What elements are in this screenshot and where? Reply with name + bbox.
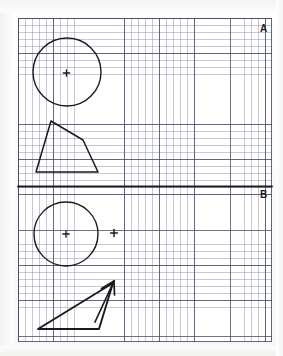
scan-edge-top [0,0,283,13]
scan-edge-right [276,0,283,356]
region-label-b: B [260,190,267,200]
region-label-a: A [260,24,267,34]
graph-grid [18,18,272,342]
grid-border [18,18,272,342]
worksheet-page: A B [0,0,283,356]
scan-edge-bottom [0,346,283,356]
scan-edge-left [0,0,14,356]
